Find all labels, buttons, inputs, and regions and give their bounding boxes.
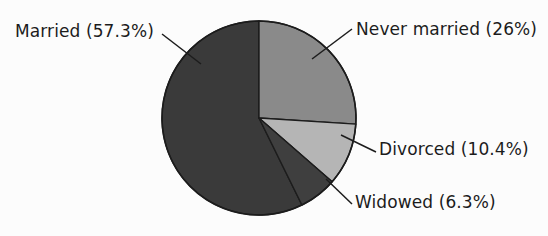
pie-label-never-married: Never married (26%) — [356, 19, 537, 39]
pie-label-married: Married (57.3%) — [15, 21, 154, 41]
pie-chart: Married (57.3%) Never married (26%) Divo… — [0, 0, 548, 236]
pie-label-divorced: Divorced (10.4%) — [379, 139, 529, 159]
leader-line-widowed — [326, 179, 352, 204]
pie-label-widowed: Widowed (6.3%) — [355, 192, 496, 212]
